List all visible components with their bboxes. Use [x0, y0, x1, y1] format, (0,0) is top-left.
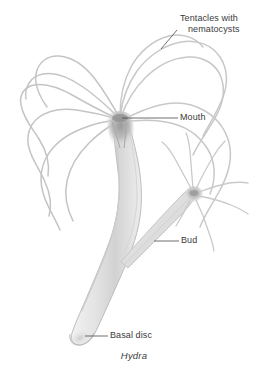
label-tentacles-line1: Tentacles with	[180, 13, 238, 23]
tentacle-group-left	[21, 56, 119, 230]
label-tentacles-with-nematocysts: Tentacles with nematocysts	[180, 13, 240, 35]
label-tentacles-line2: nematocysts	[180, 24, 240, 35]
hydra-figure	[0, 0, 268, 372]
label-mouth: Mouth	[180, 112, 206, 123]
figure-caption: Hydra	[0, 350, 268, 361]
label-basal-disc: Basal disc	[110, 330, 152, 341]
hydra-illustration	[0, 0, 268, 372]
mouth-region	[107, 111, 134, 148]
body-column	[71, 119, 141, 345]
tentacle-group-bud	[162, 133, 248, 251]
label-bud: Bud	[181, 235, 197, 246]
